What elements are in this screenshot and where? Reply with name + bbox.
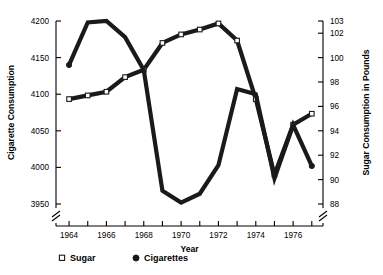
x-axis-tick-label: 1964 (60, 231, 79, 240)
right-axis-tick-label: 100 (330, 54, 344, 63)
line-chart: 3950400040504100415042008890929496981001… (0, 0, 383, 275)
series-line-cigarettes (69, 21, 312, 203)
legend-label-cigarettes: Cigarettes (144, 253, 188, 263)
data-point-cigarettes-1977 (309, 163, 314, 168)
data-point-sugar-1973 (235, 38, 240, 43)
right-axis-tick-label: 90 (330, 176, 340, 185)
chart-container: 3950400040504100415042008890929496981001… (0, 0, 383, 275)
axes (52, 21, 327, 226)
axis-labels: 3950400040504100415042008890929496981001… (6, 17, 371, 254)
x-axis-tick-label: 1972 (209, 231, 228, 240)
right-axis-tick-label: 103 (330, 17, 344, 26)
data-point-sugar-1971 (197, 27, 202, 32)
right-axis-break (319, 211, 327, 221)
left-axis-tick-label: 4150 (31, 54, 50, 63)
data-point-cigarettes-1964 (66, 62, 71, 67)
data-point-sugar-1970 (179, 32, 184, 37)
legend-marker-cigarettes (133, 255, 139, 261)
series-line-sugar (69, 23, 312, 174)
x-axis-tick-label: 1970 (172, 231, 191, 240)
data-point-sugar-1967 (123, 75, 128, 80)
left-axis-break (52, 211, 60, 221)
left-axis-tick-label: 4000 (31, 163, 50, 172)
left-axis-tick-label: 4050 (31, 127, 50, 136)
left-axis-tick-label: 4200 (31, 17, 50, 26)
right-axis-tick-label: 98 (330, 78, 340, 87)
right-axis-tick-label: 96 (330, 102, 340, 111)
data-point-sugar-1969 (160, 41, 165, 46)
data-point-sugar-1966 (104, 89, 109, 94)
legend-marker-sugar (59, 255, 64, 260)
data-point-sugar-1972 (216, 21, 221, 26)
right-axis-tick-label: 94 (330, 127, 340, 136)
data-point-sugar-1965 (85, 93, 90, 98)
left-axis-tick-label: 3950 (31, 200, 50, 209)
chart-legend: SugarCigarettes (59, 253, 188, 263)
x-axis-tick-label: 1966 (97, 231, 116, 240)
right-axis-tick-label: 102 (330, 29, 344, 38)
x-axis-tick-label: 1976 (284, 231, 303, 240)
data-series (66, 21, 314, 203)
y-axis-title: Cigarette Consumption (6, 65, 16, 160)
y-axis-title-right: Sugar Consumption in Pounds (361, 49, 371, 175)
data-point-sugar-1977 (309, 111, 314, 116)
data-point-sugar-1964 (67, 97, 72, 102)
right-axis-tick-label: 88 (330, 200, 340, 209)
right-axis-tick-label: 92 (330, 151, 340, 160)
x-axis-tick-label: 1968 (135, 231, 154, 240)
legend-label-sugar: Sugar (70, 253, 96, 263)
x-axis-tick-label: 1974 (247, 231, 266, 240)
left-axis-tick-label: 4100 (31, 90, 50, 99)
